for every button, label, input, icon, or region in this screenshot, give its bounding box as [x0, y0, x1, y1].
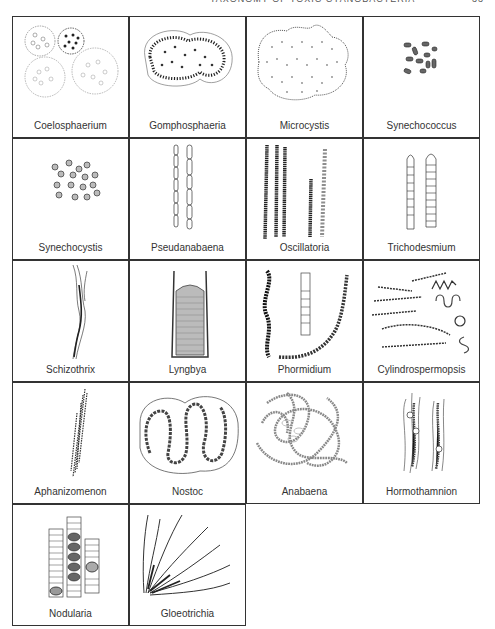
genus-label: Oscillatoria — [247, 242, 362, 253]
colony-spheres-icon — [13, 17, 128, 117]
genus-label: Synechococcus — [364, 120, 479, 131]
filament-bundle-icon — [13, 383, 128, 483]
cell-anabaena: Anabaena — [246, 382, 363, 504]
genus-label: Anabaena — [247, 486, 362, 497]
genus-label: Aphanizomenon — [13, 486, 128, 497]
running-head-title: TAXONOMY OF TOXIC CYANOBACTERIA — [210, 0, 415, 4]
genus-label: Synechocystis — [13, 242, 128, 253]
genus-label: Trichodesmium — [364, 242, 479, 253]
genus-label: Nodularia — [13, 608, 128, 619]
coiled-filaments-icon — [364, 261, 479, 361]
genus-label: Cylindrospermopsis — [364, 364, 479, 375]
cell-cylindrospermopsis: Cylindrospermopsis — [363, 260, 480, 382]
straight-trichomes-icon — [247, 139, 362, 239]
running-head: TAXONOMY OF TOXIC CYANOBACTERIA 33 — [210, 0, 490, 4]
rod-cells-icon — [364, 17, 479, 117]
coiled-chain-colony-icon — [130, 383, 245, 483]
segmented-filament-icon — [130, 139, 245, 239]
genus-label: Schizothrix — [13, 364, 128, 375]
genus-label: Hormothamnion — [364, 486, 479, 497]
cell-schizothrix: Schizothrix — [12, 260, 129, 382]
genus-label: Microcystis — [247, 120, 362, 131]
genus-label: Lyngbya — [130, 364, 245, 375]
genus-label: Phormidium — [247, 364, 362, 375]
disc-cell-filaments-icon — [13, 505, 128, 605]
cell-lyngbya: Lyngbya — [129, 260, 246, 382]
genus-label: Nostoc — [130, 486, 245, 497]
genus-label: Coelosphaerium — [13, 120, 128, 131]
genus-label: Gloeotrichia — [130, 608, 245, 619]
banded-trichomes-icon — [364, 139, 479, 239]
cell-coelosphaerium: Coelosphaerium — [12, 16, 129, 138]
tangled-chains-icon — [247, 383, 362, 483]
cell-synechococcus: Synechococcus — [363, 16, 480, 138]
cell-trichodesmium: Trichodesmium — [363, 138, 480, 260]
cell-oscillatoria: Oscillatoria — [246, 138, 363, 260]
lobed-colony-icon — [130, 17, 245, 117]
cell-pseudanabaena: Pseudanabaena — [129, 138, 246, 260]
cell-hormothamnion: Hormothamnion — [363, 382, 480, 504]
cell-nostoc: Nostoc — [129, 382, 246, 504]
cell-phormidium: Phormidium — [246, 260, 363, 382]
curved-trichomes-icon — [247, 261, 362, 361]
page-number: 33 — [472, 0, 484, 4]
cell-gomphosphaeria: Gomphosphaeria — [129, 16, 246, 138]
genus-label: Pseudanabaena — [130, 242, 245, 253]
cell-microcystis: Microcystis — [246, 16, 363, 138]
cell-aphanizomenon: Aphanizomenon — [12, 382, 129, 504]
genus-label: Gomphosphaeria — [130, 120, 245, 131]
spherical-cells-icon — [13, 139, 128, 239]
cell-nodularia: Nodularia — [12, 504, 129, 626]
radiating-filaments-icon — [130, 505, 245, 605]
sheathed-trichome-icon — [130, 261, 245, 361]
sheathed-filament-icon — [13, 261, 128, 361]
sheathed-chains-icon — [364, 383, 479, 483]
cell-gloeotrichia: Gloeotrichia — [129, 504, 246, 626]
irregular-colony-icon — [247, 17, 362, 117]
cell-synechocystis: Synechocystis — [12, 138, 129, 260]
